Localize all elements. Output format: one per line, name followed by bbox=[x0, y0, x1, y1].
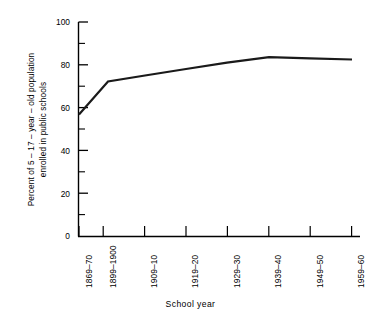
y-axis-minor-ticks bbox=[79, 43, 86, 214]
x-tick-label-1919-20: 1919–20 bbox=[190, 255, 200, 288]
x-tick-label-1899-1900: 1899–1900 bbox=[108, 245, 118, 288]
x-tick-label-1909-10: 1909–10 bbox=[149, 255, 159, 288]
x-tick-label-1959-60: 1959–60 bbox=[356, 255, 366, 288]
x-tick-label-1939-40: 1939–40 bbox=[273, 255, 283, 288]
x-tick-label-1869-70: 1869–70 bbox=[84, 255, 94, 288]
y-axis-major-ticks bbox=[79, 22, 89, 193]
x-axis-ticks bbox=[79, 226, 352, 237]
x-tick-label-1949-50: 1949–50 bbox=[315, 255, 325, 288]
data-series-line bbox=[79, 57, 352, 114]
x-tick-label-1929-30: 1929–30 bbox=[232, 255, 242, 288]
x-axis-title: School year bbox=[0, 299, 381, 309]
chart-figure: Percent of 5 – 17 – year – old populatio… bbox=[0, 0, 381, 325]
